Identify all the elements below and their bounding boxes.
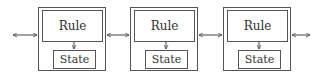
connectors [0, 0, 322, 76]
